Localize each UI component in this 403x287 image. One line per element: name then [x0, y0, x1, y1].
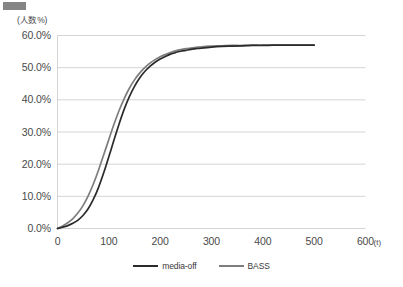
y-tick-label: 60.0% — [5, 29, 51, 41]
x-tick-label: 100 — [89, 235, 129, 247]
x-tick-label: 400 — [243, 235, 283, 247]
y-tick-label: 0.0% — [5, 222, 51, 234]
series-lines — [58, 45, 315, 228]
y-tick-label: 20.0% — [5, 158, 51, 170]
y-tick-label: 10.0% — [5, 190, 51, 202]
x-axis-unit-label: (t) — [374, 238, 382, 247]
x-tick-label: 0 — [38, 235, 78, 247]
legend-item-bass[interactable]: BASS — [219, 261, 270, 271]
x-tick-label: 500 — [294, 235, 334, 247]
series-line-media-off — [58, 45, 315, 228]
series-line-bass — [58, 45, 315, 228]
legend-item-media-off[interactable]: media-off — [133, 261, 196, 271]
chart-figure: (人数%) 0.0%10.0%20.0%30.0%40.0%50.0%60.0%… — [0, 0, 403, 287]
chart-legend: media-off BASS — [0, 261, 403, 271]
y-tick-label: 50.0% — [5, 61, 51, 73]
legend-swatch-media-off — [133, 265, 158, 267]
legend-label-media-off: media-off — [162, 261, 196, 271]
y-tick-label: 40.0% — [5, 93, 51, 105]
x-tick-label: 200 — [140, 235, 180, 247]
gridlines — [58, 36, 366, 229]
x-tick-label: 300 — [192, 235, 232, 247]
legend-label-bass: BASS — [248, 261, 270, 271]
legend-swatch-bass — [219, 265, 244, 267]
y-tick-label: 30.0% — [5, 126, 51, 138]
